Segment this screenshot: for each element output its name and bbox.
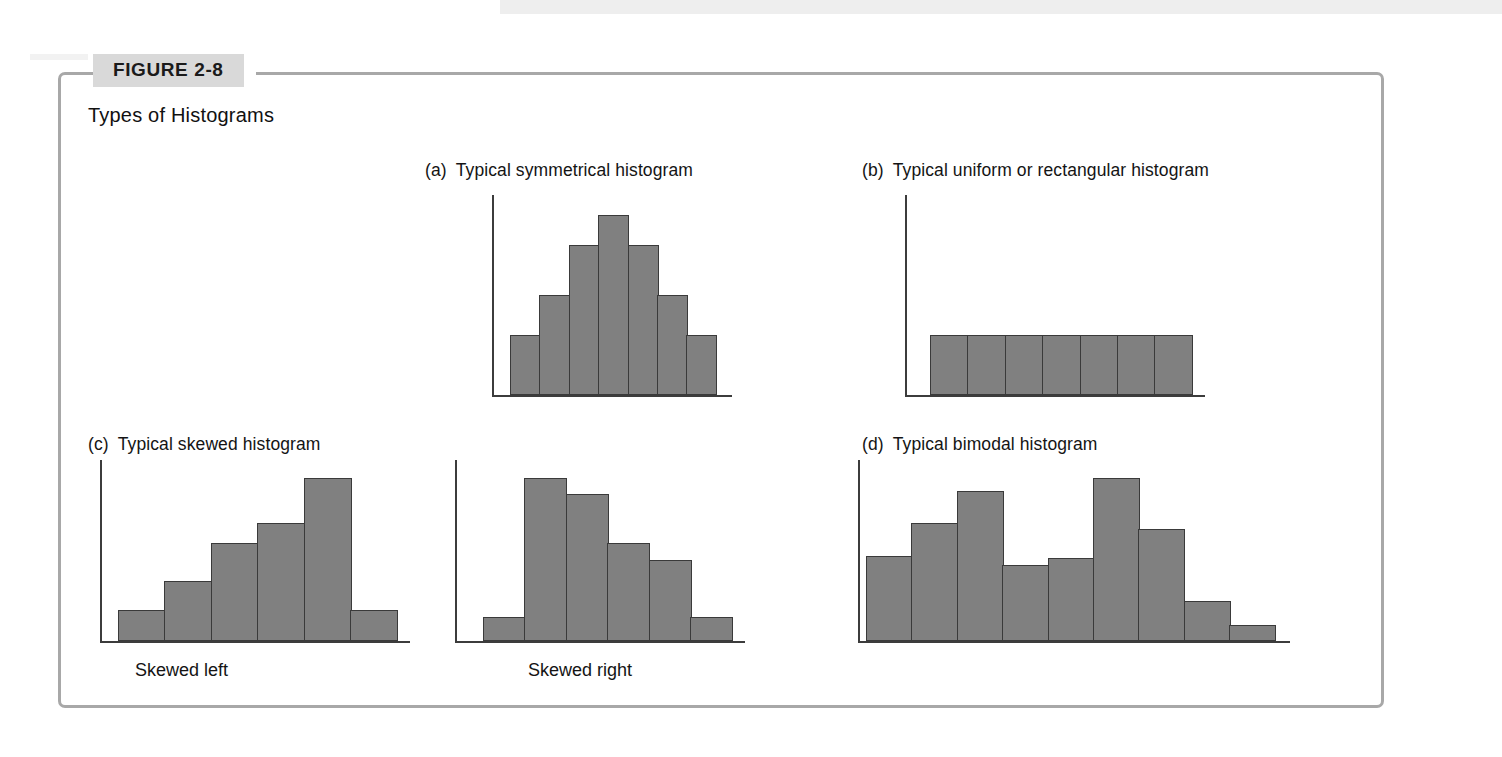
sub-label-skewed-left: Skewed left	[135, 660, 228, 681]
y-axis-c2	[455, 460, 457, 643]
histogram-bar	[1117, 335, 1156, 395]
histogram-bar	[690, 617, 733, 641]
bar-group-a	[510, 195, 716, 395]
panel-marker-b: (b)	[862, 160, 884, 180]
histogram-bar	[607, 543, 650, 641]
histogram-bar	[304, 478, 352, 641]
histogram-bar	[649, 560, 692, 641]
histogram-bar	[524, 478, 567, 641]
bar-group-b	[930, 195, 1192, 395]
histogram-bar	[1229, 625, 1276, 641]
panel-title-c: (c)Typical skewed histogram	[88, 434, 320, 455]
y-axis-a	[492, 195, 494, 397]
histogram-bar	[257, 523, 305, 641]
x-axis-c	[100, 641, 410, 643]
histogram-bar	[211, 543, 259, 641]
panel-title-a: (a)Typical symmetrical histogram	[425, 160, 693, 181]
histogram-bar	[1184, 601, 1231, 641]
sub-label-skewed-right: Skewed right	[528, 660, 632, 681]
panel-title-text-b: Typical uniform or rectangular histogram	[893, 160, 1209, 180]
histogram-bar	[1042, 335, 1081, 395]
histogram-bar	[1093, 478, 1140, 641]
histogram-bar	[911, 523, 958, 641]
histogram-bar	[1138, 529, 1185, 641]
histogram-bar	[1080, 335, 1119, 395]
figure-number-tag: FIGURE 2-8	[93, 54, 244, 87]
y-axis-c	[100, 460, 102, 643]
panel-title-text-a: Typical symmetrical histogram	[456, 160, 693, 180]
histogram-bar	[510, 335, 541, 395]
histogram-bar	[930, 335, 969, 395]
x-axis-d	[858, 641, 1290, 643]
panel-marker-a: (a)	[425, 160, 447, 180]
bar-group-c	[118, 460, 396, 641]
histogram-bar	[598, 215, 629, 395]
x-axis-a	[492, 395, 732, 397]
histogram-bar	[1002, 565, 1049, 641]
panel-title-text-d: Typical bimodal histogram	[893, 434, 1098, 454]
histogram-bar	[628, 245, 659, 395]
chart-skewed-left-histogram	[100, 460, 410, 643]
y-axis-b	[905, 195, 907, 397]
panel-marker-c: (c)	[88, 434, 109, 454]
histogram-bar	[1048, 558, 1095, 641]
chart-bimodal-histogram	[858, 460, 1290, 643]
histogram-bar	[686, 335, 717, 395]
histogram-bar	[957, 491, 1004, 641]
panel-marker-d: (d)	[862, 434, 884, 454]
y-axis-d	[858, 460, 860, 643]
histogram-bar	[1005, 335, 1044, 395]
figure-caption: Types of Histograms	[88, 104, 274, 127]
panel-title-b: (b)Typical uniform or rectangular histog…	[862, 160, 1209, 181]
histogram-bar	[967, 335, 1006, 395]
figure-number-label: FIGURE 2-8	[113, 59, 224, 80]
histogram-bar	[566, 494, 609, 641]
x-axis-b	[905, 395, 1205, 397]
histogram-bar	[569, 245, 600, 395]
scan-artifact-band-left	[30, 54, 88, 60]
panel-title-d: (d)Typical bimodal histogram	[862, 434, 1098, 455]
histogram-bar	[539, 295, 570, 395]
histogram-bar	[1154, 335, 1193, 395]
bar-group-d	[866, 460, 1275, 641]
chart-uniform-histogram	[905, 195, 1205, 397]
scan-artifact-band-top	[500, 0, 1502, 14]
histogram-bar	[657, 295, 688, 395]
chart-skewed-right-histogram	[455, 460, 745, 643]
bar-group-c2	[483, 460, 731, 641]
panel-title-text-c: Typical skewed histogram	[118, 434, 321, 454]
histogram-bar	[118, 610, 166, 641]
histogram-bar	[483, 617, 526, 641]
x-axis-c2	[455, 641, 745, 643]
histogram-bar	[350, 610, 398, 641]
chart-symmetrical-histogram	[492, 195, 732, 397]
histogram-bar	[164, 581, 212, 641]
histogram-bar	[866, 556, 913, 641]
